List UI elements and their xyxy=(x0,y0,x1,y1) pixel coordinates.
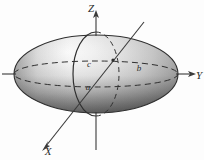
semi-axis-c-label: c xyxy=(87,59,91,69)
x-axis-label: X xyxy=(44,145,53,157)
ellipsoid-body xyxy=(14,35,178,113)
z-axis-label: Z xyxy=(88,2,95,14)
ellipsoid-figure: Z Y X c b a xyxy=(0,0,204,160)
ellipsoid-diagram: Z Y X c b a xyxy=(0,0,204,160)
x-axis-surface-point xyxy=(111,58,114,61)
semi-axis-a-label: a xyxy=(86,82,91,92)
semi-axis-b-label: b xyxy=(137,63,142,73)
y-axis-label: Y xyxy=(196,69,204,81)
